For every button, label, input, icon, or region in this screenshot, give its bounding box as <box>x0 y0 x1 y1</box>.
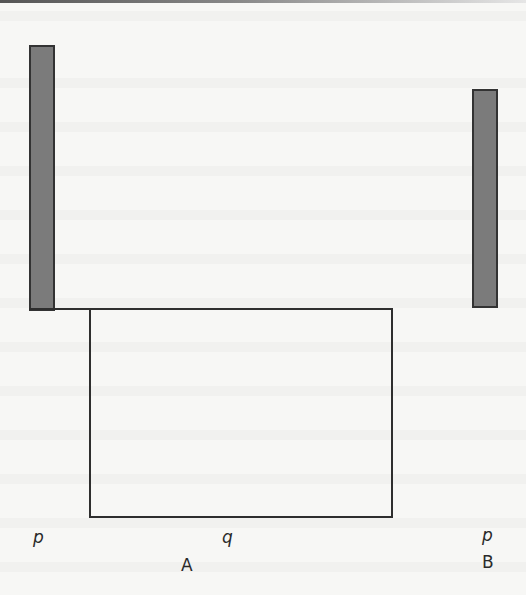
right-bar-p <box>472 89 498 308</box>
rectangle-q <box>89 308 393 518</box>
left-bar-label: p <box>33 529 44 546</box>
connector-line <box>29 308 91 310</box>
rectangle-label: q <box>222 529 233 546</box>
group-b-label: B <box>482 554 494 571</box>
group-a-label: A <box>181 557 193 574</box>
right-bar-label: p <box>482 527 493 544</box>
scan-edge <box>0 0 526 3</box>
left-bar-p <box>29 45 55 311</box>
